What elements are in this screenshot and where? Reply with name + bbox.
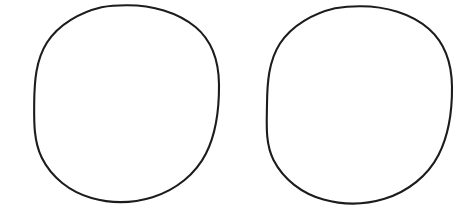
canvas-background <box>0 0 474 220</box>
drawing-canvas <box>0 0 474 220</box>
circles-drawing <box>0 0 474 220</box>
